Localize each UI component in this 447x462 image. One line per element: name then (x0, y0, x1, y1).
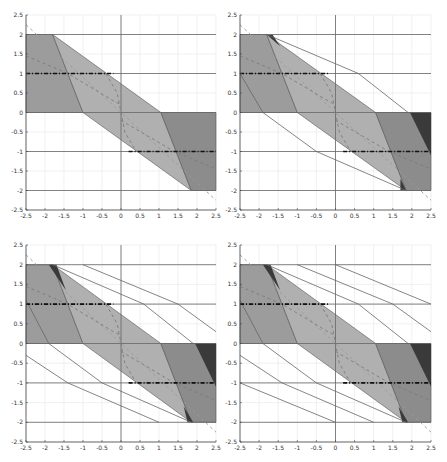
y-tick-label: 2.5 (13, 11, 23, 18)
x-tick-label: 2.5 (426, 212, 436, 219)
x-tick-label: 0 (334, 212, 338, 219)
y-tick-label: 0 (233, 340, 237, 347)
x-tick-label: -1.5 (272, 212, 284, 219)
y-tick-label: 0.5 (227, 320, 237, 327)
x-tick-label: -2.5 (20, 212, 32, 219)
x-tick-label: 2.5 (211, 212, 221, 219)
y-tick-label: -1.5 (225, 399, 237, 406)
y-tick-label: -1.5 (225, 167, 237, 174)
y-tick-label: -0.5 (225, 359, 237, 366)
y-tick-label: 0.5 (227, 89, 237, 96)
x-tick-label: -1 (294, 444, 300, 451)
chart-panel-top-right: 2.521.510.50-0.5-1-1.5-2-2.5-2.5-2-1.5-1… (240, 15, 431, 210)
x-tick-label: 0 (119, 212, 123, 219)
x-tick-label: 2.5 (211, 444, 221, 451)
y-tick-label: 2.5 (227, 241, 237, 248)
y-tick-label: 1.5 (227, 280, 237, 287)
x-tick-label: -1.5 (58, 212, 70, 219)
y-tick-label: 1 (233, 300, 237, 307)
y-tick-label: -0.5 (225, 128, 237, 135)
y-tick-label: 2 (233, 261, 237, 268)
x-tick-label: -1 (294, 212, 300, 219)
x-tick-label: -1.5 (272, 444, 284, 451)
y-tick-label: 2.5 (13, 241, 23, 248)
x-tick-label: 2.5 (426, 444, 436, 451)
x-tick-label: -1 (80, 212, 86, 219)
x-tick-label: 2 (410, 444, 414, 451)
plot-area: 2.521.510.50-0.5-1-1.5-2-2.5-2.5-2-1.5-1… (240, 15, 431, 210)
y-tick-label: -2 (231, 418, 237, 425)
x-tick-label: 2 (410, 212, 414, 219)
y-tick-label: 1 (233, 70, 237, 77)
chart-panel-bottom-right: 2.521.510.50-0.5-1-1.5-2-2.5-2.5-2-1.5-1… (240, 245, 431, 442)
y-tick-label: 0.5 (13, 320, 23, 327)
x-tick-label: -0.5 (311, 212, 323, 219)
x-tick-label: 0.5 (135, 444, 145, 451)
x-tick-label: 0.5 (350, 444, 360, 451)
y-tick-label: -0.5 (11, 128, 23, 135)
x-tick-label: -0.5 (311, 444, 323, 451)
y-tick-label: -1 (17, 148, 23, 155)
x-tick-label: -2 (42, 212, 48, 219)
x-tick-label: -2 (256, 444, 262, 451)
x-tick-label: 1.5 (173, 212, 183, 219)
y-tick-label: -0.5 (11, 359, 23, 366)
chart-panel-top-left: 2.521.510.50-0.5-1-1.5-2-2.5-2.5-2-1.5-1… (26, 15, 216, 210)
plot-area: 2.521.510.50-0.5-1-1.5-2-2.5-2.5-2-1.5-1… (26, 245, 216, 442)
x-tick-label: -2 (256, 212, 262, 219)
y-tick-label: -1 (231, 148, 237, 155)
y-tick-label: 2 (19, 261, 23, 268)
y-tick-label: 1.5 (13, 50, 23, 57)
y-tick-label: 1 (19, 300, 23, 307)
x-tick-label: -2.5 (234, 212, 246, 219)
x-tick-label: -0.5 (96, 444, 108, 451)
y-tick-label: 0 (19, 340, 23, 347)
y-tick-label: 0 (233, 109, 237, 116)
y-tick-label: 2 (19, 31, 23, 38)
y-tick-label: -1.5 (11, 399, 23, 406)
x-tick-label: -2.5 (20, 444, 32, 451)
y-tick-label: 1.5 (227, 50, 237, 57)
chart-panel-bottom-left: 2.521.510.50-0.5-1-1.5-2-2.5-2.5-2-1.5-1… (26, 245, 216, 442)
x-tick-label: 1 (157, 212, 161, 219)
plot-area: 2.521.510.50-0.5-1-1.5-2-2.5-2.5-2-1.5-1… (26, 15, 216, 210)
x-tick-label: -1 (80, 444, 86, 451)
y-tick-label: -1.5 (11, 167, 23, 174)
x-tick-label: -2 (42, 444, 48, 451)
plot-area: 2.521.510.50-0.5-1-1.5-2-2.5-2.5-2-1.5-1… (240, 245, 431, 442)
y-tick-label: 0 (19, 109, 23, 116)
x-tick-label: -0.5 (96, 212, 108, 219)
x-tick-label: 0.5 (135, 212, 145, 219)
y-tick-label: -1 (17, 379, 23, 386)
y-tick-label: 0.5 (13, 89, 23, 96)
x-tick-label: -2.5 (234, 444, 246, 451)
x-tick-label: 1 (372, 444, 376, 451)
x-tick-label: 1.5 (388, 444, 398, 451)
y-tick-label: -2 (231, 187, 237, 194)
x-tick-label: 0 (334, 444, 338, 451)
y-tick-label: 2.5 (227, 11, 237, 18)
y-tick-label: 1.5 (13, 280, 23, 287)
x-tick-label: 1.5 (388, 212, 398, 219)
x-tick-label: 0.5 (350, 212, 360, 219)
x-tick-label: 0 (119, 444, 123, 451)
x-tick-label: 2 (195, 444, 199, 451)
x-tick-label: 1 (157, 444, 161, 451)
y-tick-label: -2 (17, 418, 23, 425)
x-tick-label: 1 (372, 212, 376, 219)
y-tick-label: 2 (233, 31, 237, 38)
x-tick-label: 2 (195, 212, 199, 219)
y-tick-label: 1 (19, 70, 23, 77)
x-tick-label: -1.5 (58, 444, 70, 451)
x-tick-label: 1.5 (173, 444, 183, 451)
y-tick-label: -1 (231, 379, 237, 386)
y-tick-label: -2 (17, 187, 23, 194)
